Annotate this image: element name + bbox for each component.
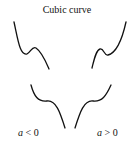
label-a-negative: a < 0 — [18, 127, 39, 138]
label-a-positive: a > 0 — [97, 127, 118, 138]
curve-upper-right — [92, 22, 126, 68]
curve-lower-right — [75, 85, 111, 128]
curve-upper-left — [14, 22, 49, 69]
label-relation: > 0 — [102, 127, 118, 138]
curve-lower-left — [31, 85, 65, 128]
cubic-curves-figure — [0, 0, 134, 141]
label-relation: < 0 — [23, 127, 39, 138]
